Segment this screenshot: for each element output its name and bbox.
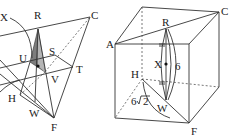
- geometry-figures: X R C U S T V H W F: [0, 0, 233, 140]
- label-c-cube: C: [221, 5, 228, 17]
- label-r: R: [34, 9, 42, 21]
- cube-front-face: [115, 44, 189, 123]
- label-w: W: [29, 107, 40, 119]
- label-h-cube: H: [131, 68, 139, 80]
- label-six-root-two-rad: 2: [143, 95, 149, 107]
- point-x: [36, 64, 39, 67]
- right-figure: A R C X 6 H 6 2 W F: [106, 5, 228, 137]
- label-f-cube: F: [191, 125, 197, 137]
- left-figure: X R C U S T V H W F: [0, 9, 98, 133]
- label-t: T: [76, 63, 83, 75]
- label-r-cube: R: [162, 16, 170, 28]
- label-f: F: [51, 121, 57, 133]
- label-c: C: [91, 9, 98, 21]
- label-six-root-two-coef: 6: [131, 95, 137, 107]
- label-w-cube: W: [157, 102, 168, 114]
- label-v: V: [51, 73, 59, 85]
- label-six: 6: [175, 60, 181, 72]
- label-h: H: [8, 92, 16, 104]
- label-a: A: [106, 38, 114, 50]
- label-x-cube: X: [154, 58, 162, 70]
- label-s: S: [49, 45, 55, 57]
- label-x: X: [0, 11, 8, 23]
- point-x-cube: [164, 62, 167, 65]
- label-u: U: [19, 52, 27, 64]
